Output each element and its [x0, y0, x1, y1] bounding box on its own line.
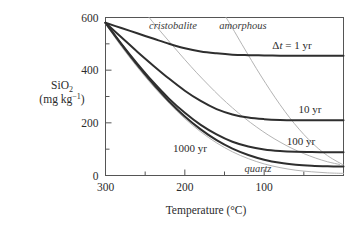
chart-background: [0, 0, 352, 230]
y-tick-label: 200: [81, 117, 99, 129]
annotation--t-1-yr: Δt = 1 yr: [272, 39, 312, 51]
chart-canvas: 300200100 0200400600 Temperature (°C) Si…: [0, 0, 352, 230]
annotation-1000-yr: 1000 yr: [173, 142, 207, 154]
y-tick-label: 0: [93, 170, 99, 182]
x-tick-label: 100: [256, 181, 274, 193]
y-tick-label: 600: [81, 12, 99, 24]
x-tick-label: 200: [176, 181, 194, 193]
annotation-amorphous: amorphous: [219, 20, 266, 31]
annotation-100-yr: 100 yr: [287, 135, 316, 147]
annotation-quartz: quartz: [245, 163, 272, 174]
x-axis-title: Temperature (°C): [166, 204, 247, 217]
y-tick-label: 400: [81, 64, 99, 76]
annotation-cristobalite: cristobalite: [149, 20, 197, 31]
silica-solubility-figure: 300200100 0200400600 Temperature (°C) Si…: [0, 0, 352, 230]
annotation-10-yr: 10 yr: [299, 103, 322, 115]
x-tick-label: 300: [97, 181, 115, 193]
